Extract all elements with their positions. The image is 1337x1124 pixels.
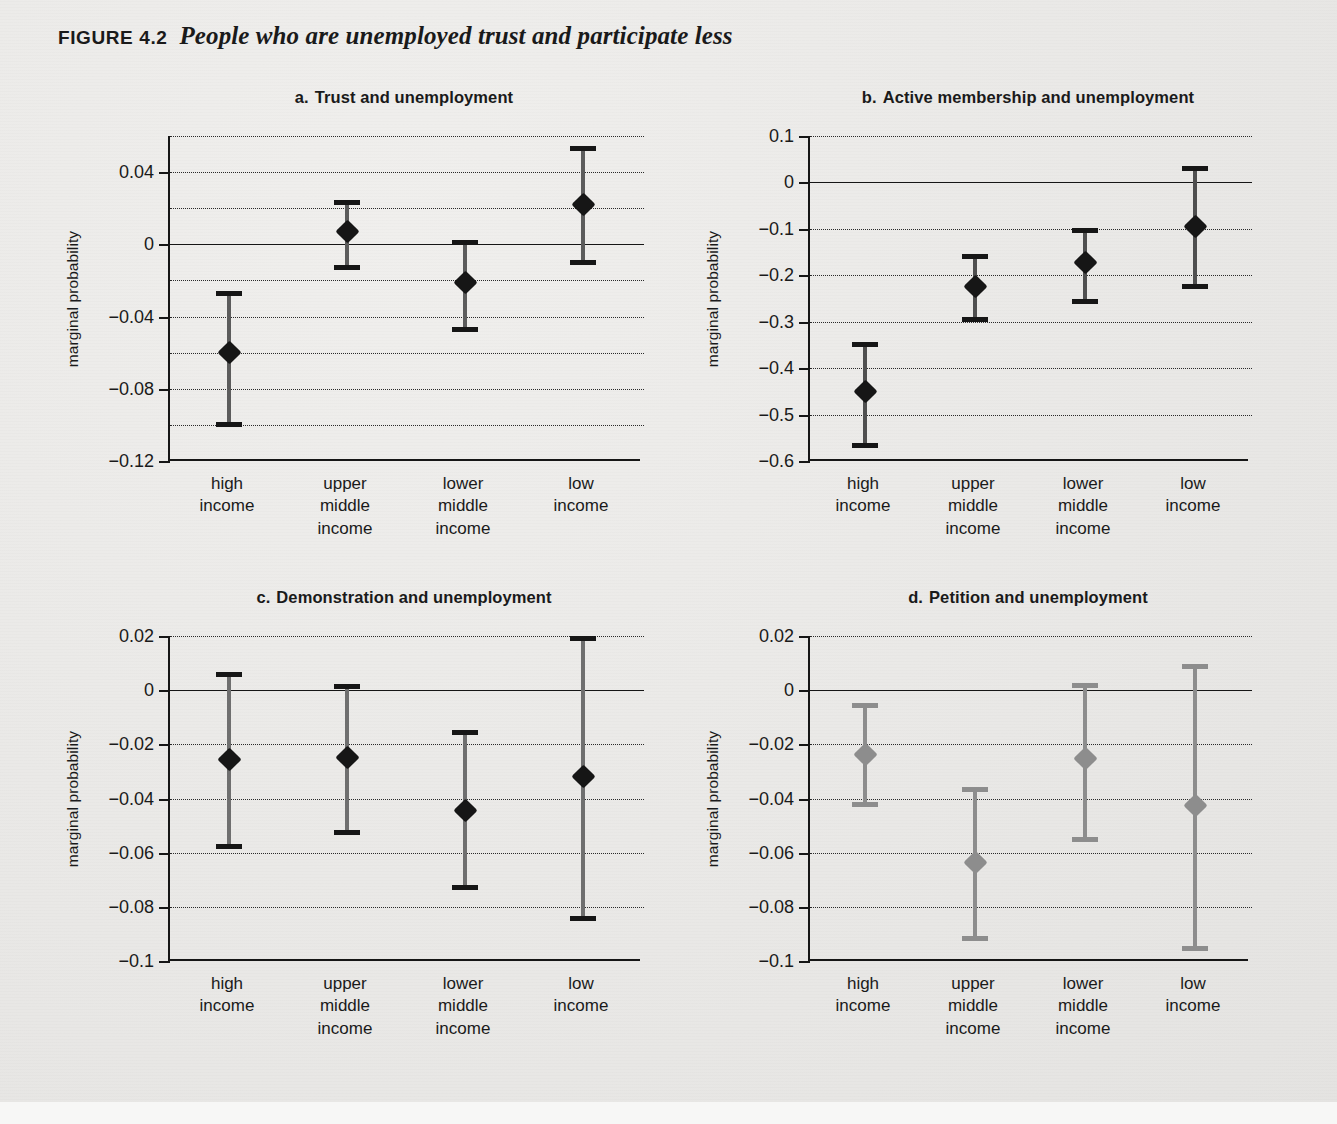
error-bar-cap-lower (1182, 946, 1208, 951)
error-bar-cap-lower (452, 327, 478, 332)
x-category-label: lowermiddleincome (436, 473, 491, 540)
x-category-line: income (1166, 495, 1221, 517)
error-bar-cap-upper (962, 254, 988, 259)
panel-title-text-a: Trust and unemployment (315, 88, 513, 106)
x-category-line: middle (436, 995, 491, 1017)
x-category-line: low (554, 473, 609, 495)
error-bar-cap-upper (452, 730, 478, 735)
x-category-label: uppermiddleincome (946, 973, 1001, 1040)
error-bar-cap-upper (216, 672, 242, 677)
x-category-line: low (1166, 973, 1221, 995)
plot-area-c: 0.020−0.02−0.04−0.06−0.08−0.1 (168, 636, 640, 961)
error-bar-cap-upper (570, 146, 596, 151)
x-category-line: high (200, 973, 255, 995)
x-category-label: lowermiddleincome (1056, 473, 1111, 540)
data-point-marker (1183, 215, 1207, 239)
y-tick-label: −0.2 (758, 265, 794, 286)
figure-number: FIGURE 4.2 (58, 27, 167, 49)
error-bar-cap-lower (216, 422, 242, 427)
y-tick-label: −0.02 (108, 734, 154, 755)
error-bar-b-0 (850, 136, 880, 461)
error-bar-cap-lower (962, 936, 988, 941)
x-category-label: uppermiddleincome (946, 473, 1001, 540)
x-category-line: middle (946, 495, 1001, 517)
error-bar-a-1 (332, 136, 362, 461)
y-tick-label: −0.06 (748, 842, 794, 863)
error-bar-cap-upper (452, 240, 478, 245)
y-tick-label: −0.06 (108, 842, 154, 863)
x-category-label: lowincome (554, 473, 609, 518)
error-bar-cap-upper (852, 703, 878, 708)
y-tick (799, 853, 810, 855)
x-category-label: lowincome (554, 973, 609, 1018)
error-bar-cap-lower (962, 317, 988, 322)
y-tick-label: −0.12 (108, 451, 154, 472)
error-bar-cap-lower (852, 443, 878, 448)
y-axis-label-d: marginal probability (704, 730, 722, 866)
data-point-marker (335, 220, 359, 244)
x-category-line: upper (318, 473, 373, 495)
x-category-line: income (436, 518, 491, 540)
error-bar-cap-lower (452, 885, 478, 890)
y-tick (159, 172, 170, 174)
error-bar-cap-upper (334, 200, 360, 205)
x-category-line: middle (318, 995, 373, 1017)
data-point-marker (1073, 251, 1097, 275)
y-tick-label: −0.02 (748, 734, 794, 755)
y-tick-label: −0.08 (108, 896, 154, 917)
panel-title-text-c: Demonstration and unemployment (276, 588, 551, 606)
panel-title-b: b.Active membership and unemployment (808, 88, 1248, 107)
y-tick (799, 636, 810, 638)
y-tick-label: 0.02 (759, 626, 794, 647)
error-bar-cap-lower (216, 844, 242, 849)
error-bar-a-3 (568, 136, 598, 461)
y-tick (799, 136, 810, 138)
x-category-line: middle (318, 495, 373, 517)
y-tick (799, 182, 810, 184)
panel-letter-c: c. (256, 588, 270, 606)
y-tick (799, 229, 810, 231)
x-category-line: income (1166, 995, 1221, 1017)
error-bar-cap-upper (570, 636, 596, 641)
data-point-marker (571, 193, 595, 217)
y-tick (159, 317, 170, 319)
y-tick (159, 799, 170, 801)
x-category-label: uppermiddleincome (318, 973, 373, 1040)
y-tick-label: 0.1 (769, 126, 794, 147)
error-bar-a-0 (214, 136, 244, 461)
error-bar-cap-lower (334, 265, 360, 270)
panel-letter-b: b. (862, 88, 877, 106)
error-bar-b-2 (1070, 136, 1100, 461)
error-bar-b-3 (1180, 136, 1210, 461)
y-tick (799, 461, 810, 463)
x-category-line: income (836, 995, 891, 1017)
x-category-line: middle (1056, 995, 1111, 1017)
x-category-line: income (554, 495, 609, 517)
data-point-marker (963, 851, 987, 875)
y-tick (159, 636, 170, 638)
x-category-line: income (946, 518, 1001, 540)
y-tick (799, 415, 810, 417)
x-category-line: income (200, 495, 255, 517)
page-bottom-band (0, 1102, 1337, 1124)
error-bar-cap-lower (1182, 284, 1208, 289)
error-bar-cap-lower (570, 260, 596, 265)
y-tick (799, 799, 810, 801)
y-tick (159, 690, 170, 692)
error-bar-d-0 (850, 636, 880, 961)
error-bar-cap-lower (1072, 837, 1098, 842)
error-bar-cap-upper (216, 291, 242, 296)
figure-header: FIGURE 4.2 People who are unemployed tru… (58, 22, 733, 50)
x-category-line: income (318, 1018, 373, 1040)
x-category-label: lowermiddleincome (436, 973, 491, 1040)
error-bar-d-2 (1070, 636, 1100, 961)
data-point-marker (853, 380, 877, 404)
x-category-line: lower (1056, 473, 1111, 495)
error-bar-cap-lower (852, 802, 878, 807)
y-tick-label: −0.1 (758, 951, 794, 972)
y-tick-label: −0.5 (758, 404, 794, 425)
data-point-marker (853, 743, 877, 767)
x-category-line: upper (318, 973, 373, 995)
y-tick (159, 961, 170, 963)
x-category-line: lower (1056, 973, 1111, 995)
